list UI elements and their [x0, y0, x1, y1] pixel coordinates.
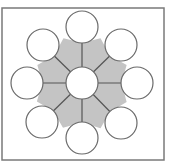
node-circle-top — [66, 11, 98, 43]
node-circle-bottom-right — [105, 107, 137, 139]
node-circle-top-right — [105, 29, 137, 61]
node-circle-top-left — [27, 29, 59, 61]
center-circle — [66, 67, 98, 99]
hub-spoke-diagram — [0, 0, 169, 162]
node-circle-left — [11, 67, 43, 99]
node-circle-bottom-left — [26, 106, 58, 138]
node-circle-right — [121, 67, 153, 99]
node-circle-bottom — [66, 122, 98, 154]
